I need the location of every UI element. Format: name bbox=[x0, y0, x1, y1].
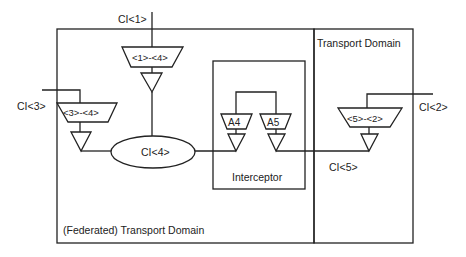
ci2-label: CI<2> bbox=[419, 101, 448, 113]
adapter-5-2-triangle-icon bbox=[361, 134, 378, 151]
adapter-5-2-label: <5>-<2> bbox=[347, 113, 383, 124]
transport-domain-box bbox=[314, 29, 413, 243]
transport-domain-label: Transport Domain bbox=[317, 37, 401, 49]
interceptor-box bbox=[213, 61, 305, 189]
a4-a5-connector bbox=[236, 92, 276, 114]
adapter-a4-label: A4 bbox=[228, 117, 241, 128]
federated-domain-label: (Federated) Transport Domain bbox=[63, 224, 204, 236]
ci5-label: CI<5> bbox=[329, 161, 358, 173]
adapter-1-4-label: <1>-<4> bbox=[132, 52, 168, 63]
adapter-3-4-label: <3>-<4> bbox=[63, 107, 99, 118]
diagram-canvas: CI<1> CI<3> CI<2> CI<4> CI<5> <1>-<4> <3… bbox=[0, 0, 466, 257]
adapter-1-4-triangle-icon bbox=[141, 73, 162, 92]
adapter-a5-triangle-icon bbox=[268, 134, 285, 151]
ci3-label: CI<3> bbox=[17, 100, 46, 112]
ci3-line bbox=[42, 90, 80, 103]
interceptor-label: Interceptor bbox=[232, 171, 283, 183]
adapter-a5-label: A5 bbox=[267, 117, 280, 128]
adapter-3-4-triangle-icon bbox=[71, 132, 91, 151]
ci4-label: CI<4> bbox=[141, 146, 170, 158]
adapter-a4-triangle-icon bbox=[228, 134, 245, 151]
ci1-label: CI<1> bbox=[118, 13, 147, 25]
